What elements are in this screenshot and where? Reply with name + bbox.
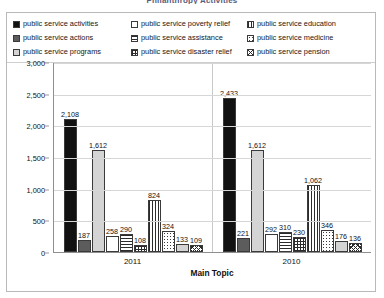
bar-value-label: 187: [78, 232, 90, 240]
bar-value-label: 292: [265, 226, 277, 234]
bar-value-label: 824: [148, 192, 160, 200]
bar-value-label: 176: [335, 233, 347, 241]
bar[interactable]: 346: [321, 230, 334, 252]
bar-value-label: 258: [106, 228, 118, 236]
bar-value-label: 1,062: [304, 177, 322, 185]
bar-value-label: 1,612: [248, 142, 266, 150]
bar-value-label: 346: [321, 222, 333, 230]
legend-swatch-icon: [247, 21, 254, 28]
bar-value-label: 133: [176, 236, 188, 244]
bar-value-label: 324: [162, 223, 174, 231]
plot-wrapper: 3,0002,5002,0001,5001,0005000 2,1081871,…: [7, 63, 375, 291]
bar-value-label: 230: [293, 229, 305, 237]
legend-swatch-icon: [247, 35, 254, 42]
y-axis-tick-mark: [45, 63, 49, 64]
legend-swatch-icon: [247, 49, 254, 56]
y-axis-tick-mark: [45, 221, 49, 222]
bar[interactable]: 221: [237, 238, 250, 252]
legend-item[interactable]: public service education: [247, 17, 373, 31]
legend-item[interactable]: public service pension: [247, 45, 373, 59]
legend-swatch-icon: [13, 49, 20, 56]
chart-container: Philanthropy Activities public service a…: [0, 0, 384, 298]
bar-value-label: 109: [190, 237, 202, 245]
bar[interactable]: 109: [190, 245, 203, 252]
legend-item-label: public service medicine: [257, 34, 333, 42]
x-axis-category-label: 2011: [53, 255, 212, 269]
bar[interactable]: 2,433: [223, 98, 236, 252]
gridline: [54, 95, 371, 96]
x-axis-labels: 20112010: [53, 255, 371, 269]
legend-item[interactable]: public service programs: [13, 45, 131, 59]
bar[interactable]: 133: [176, 244, 189, 252]
legend-item-label: public service disaster relief: [141, 48, 232, 56]
y-axis-tick-label: 1,000: [27, 185, 46, 194]
legend-item[interactable]: public service activities: [13, 17, 131, 31]
gridline: [54, 158, 371, 159]
bar-value-label: 221: [237, 230, 249, 238]
bar[interactable]: 292: [265, 234, 278, 252]
y-axis-tick-mark: [45, 189, 49, 190]
chart-title: Philanthropy Activities: [0, 0, 384, 4]
x-axis-category-label: 2010: [212, 255, 371, 269]
bar[interactable]: 230: [293, 237, 306, 252]
legend-swatch-icon: [13, 21, 20, 28]
y-axis-tick-mark: [45, 126, 49, 127]
y-axis-tick-label: 500: [33, 217, 45, 226]
y-axis-tick-mark: [45, 253, 49, 254]
bar[interactable]: 258: [106, 236, 119, 252]
bar-value-label: 108: [134, 237, 146, 245]
bar[interactable]: 2,108: [64, 119, 77, 253]
legend-item[interactable]: public service medicine: [247, 31, 373, 45]
y-axis-tick-mark: [45, 158, 49, 159]
x-axis-title: Main Topic: [53, 268, 371, 278]
legend-grid: public service activitiespublic service …: [13, 17, 375, 59]
bar[interactable]: 1,612: [251, 150, 264, 252]
y-axis: 3,0002,5002,0001,5001,0005000: [7, 63, 49, 253]
y-axis-tick-label: 3,000: [27, 59, 46, 68]
y-axis-tick-label: 2,000: [27, 122, 46, 131]
bar-value-label: 290: [120, 226, 132, 234]
plot-area: 2,1081871,6122582901088243241331092,4332…: [53, 63, 371, 253]
gridline: [54, 126, 371, 127]
legend-item[interactable]: public service assistance: [131, 31, 247, 45]
legend-item-label: public service education: [257, 20, 336, 28]
bar[interactable]: 824: [148, 200, 161, 252]
y-axis-tick-mark: [45, 94, 49, 95]
gridline: [54, 190, 371, 191]
legend-item-label: public service pension: [257, 48, 330, 56]
legend-item[interactable]: public service disaster relief: [131, 45, 247, 59]
legend-swatch-icon: [131, 49, 138, 56]
bar[interactable]: 324: [162, 231, 175, 252]
legend-item-label: public service assistance: [141, 34, 223, 42]
bar-value-label: 136: [349, 235, 361, 243]
bar-value-label: 1,612: [89, 142, 107, 150]
gridline: [54, 63, 371, 64]
legend-swatch-icon: [131, 21, 138, 28]
bar[interactable]: 290: [120, 234, 133, 252]
legend-item-label: public service programs: [23, 48, 101, 56]
y-axis-tick-label: 1,500: [27, 154, 46, 163]
bar[interactable]: 1,612: [92, 150, 105, 252]
bar[interactable]: 108: [134, 245, 147, 252]
chart-legend: public service activitiespublic service …: [7, 13, 375, 63]
bar[interactable]: 187: [78, 240, 91, 252]
bar-value-label: 310: [279, 224, 291, 232]
legend-item[interactable]: public service poverty relief: [131, 17, 247, 31]
y-axis-tick-label: 2,500: [27, 90, 46, 99]
bar[interactable]: 176: [335, 241, 348, 252]
legend-item-label: public service poverty relief: [141, 20, 230, 28]
bar[interactable]: 310: [279, 232, 292, 252]
legend-item-label: public service actions: [23, 34, 93, 42]
legend-item[interactable]: public service actions: [13, 31, 131, 45]
legend-swatch-icon: [13, 35, 20, 42]
gridline: [54, 221, 371, 222]
bar[interactable]: 1,062: [307, 185, 320, 252]
legend-item-label: public service activities: [23, 20, 98, 28]
legend-swatch-icon: [131, 35, 138, 42]
bar-value-label: 2,108: [61, 111, 79, 119]
bar[interactable]: 136: [349, 243, 362, 252]
